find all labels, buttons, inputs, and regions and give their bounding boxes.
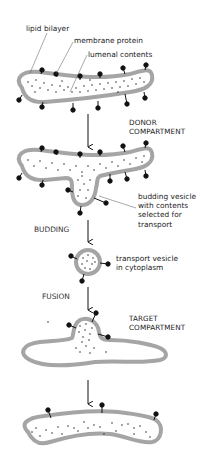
budding-compartment [17, 141, 152, 215]
resulting-compartment [25, 403, 161, 443]
transport-vesicle [69, 250, 110, 283]
step-budding: BUDDING [34, 225, 69, 234]
vesicular-transport-diagram [0, 0, 216, 470]
step-fusion: FUSION [42, 292, 70, 301]
label-budding-vesicle: budding vesicle with contents selected f… [138, 192, 196, 229]
label-membrane-protein: membrane protein [74, 36, 143, 45]
label-transport-vesicle: transport vesicle in cytoplasm [116, 254, 178, 272]
label-lumenal-contents: lumenal contents [88, 50, 152, 59]
label-donor-compartment: DONOR COMPARTMENT [129, 118, 185, 136]
label-target-compartment: TARGET COMPARTMENT [129, 314, 185, 332]
label-lipid-bilayer: lipid bilayer [26, 24, 69, 33]
